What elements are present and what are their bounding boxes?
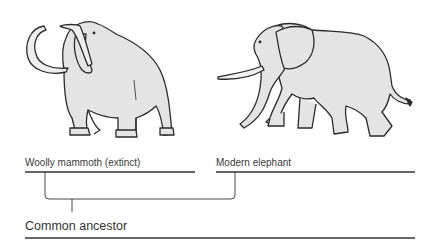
connector-bracket: [45, 172, 235, 199]
diagram-canvas: [0, 0, 435, 250]
ancestor-label: Common ancestor: [25, 219, 127, 233]
elephant-label: Modern elephant: [216, 157, 291, 168]
phylogeny-diagram: Woolly mammoth (extinct) Modern elephant…: [0, 0, 435, 250]
woolly-mammoth-icon: [27, 22, 174, 137]
elephant-icon: [218, 24, 412, 137]
mammoth-label: Woolly mammoth (extinct): [25, 157, 140, 168]
